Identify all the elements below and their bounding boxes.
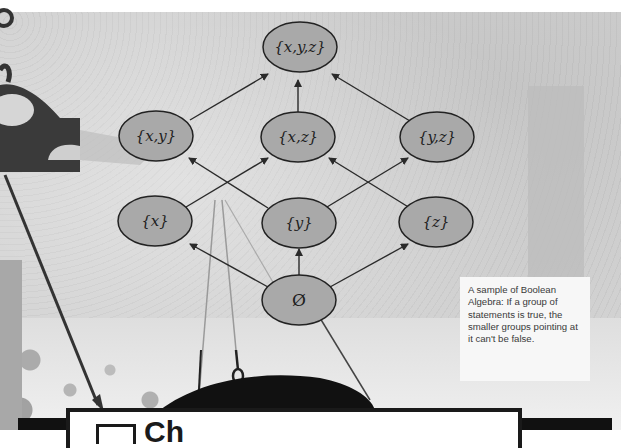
chapter-heading-box: Ch (66, 408, 522, 448)
chapter-heading: Ch (144, 417, 184, 447)
node-label-x: {x} (141, 212, 169, 230)
node-label-xy: {x,y} (136, 127, 177, 145)
lattice-edges (186, 74, 410, 287)
node-label-xz: {x,z} (278, 128, 318, 146)
node-label-y: {y} (285, 214, 313, 232)
node-label-empty-set: Ø (292, 290, 306, 310)
figure-caption: A sample of Boolean Algebra: If a group … (460, 277, 590, 381)
node-label-xyz: {x,y,z} (274, 38, 325, 56)
lattice-nodes (118, 22, 474, 325)
node-label-yz: {y,z} (418, 128, 456, 146)
box-icon (96, 424, 136, 444)
node-label-z: {z} (423, 213, 450, 231)
black-bar-right (520, 418, 612, 430)
